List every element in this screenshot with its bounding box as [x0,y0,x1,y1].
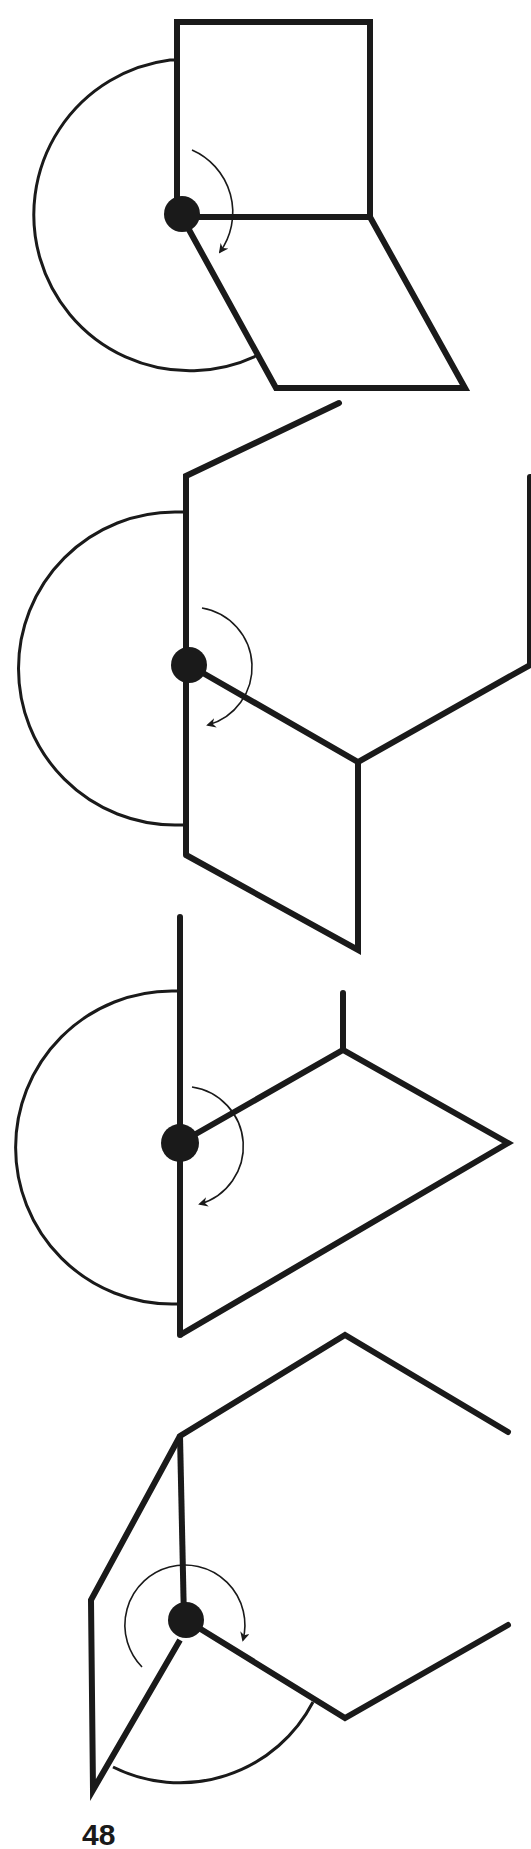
rotation-arrow [202,608,252,725]
figure-1 [34,22,465,388]
vertical-edge [180,1436,184,1620]
kite-panel [180,1050,508,1335]
figure-2 [18,403,530,950]
right-panel [189,477,530,762]
rotation-arrow [192,150,233,252]
top-panel [180,1335,508,1436]
figure-4 [91,1335,508,1790]
pivot-dot [168,1602,204,1638]
parallelogram-panel [182,217,465,388]
swing-arc [113,1702,313,1783]
square-panel [177,22,370,217]
swing-arc [18,512,184,825]
pivot-dot [164,196,200,232]
swing-arc [16,991,180,1304]
top-edge [186,403,339,855]
right-panel [186,1620,508,1718]
rotation-arrow [192,1087,243,1204]
figure-3 [16,917,508,1335]
left-panel [91,1436,180,1790]
pivot-dot [161,1124,199,1162]
page-number: 48 [82,1818,115,1849]
lower-panel [186,762,358,950]
pivot-dot [171,647,207,683]
